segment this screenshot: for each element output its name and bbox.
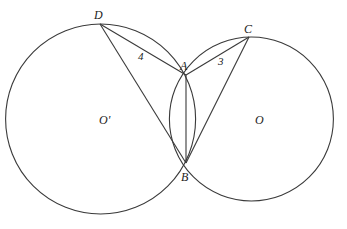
label-center-o-prime: O' [99,113,111,127]
circle-o [169,37,333,201]
label-point-c: C [244,22,253,36]
label-point-d: D [93,8,103,22]
label-angle-3: 3 [217,55,224,67]
label-center-o: O [255,113,264,127]
label-point-a: A [179,59,188,73]
label-point-b: B [181,170,189,184]
label-angle-4: 4 [138,50,144,62]
geometry-diagram: D A C B O' O 4 3 [0,0,347,229]
